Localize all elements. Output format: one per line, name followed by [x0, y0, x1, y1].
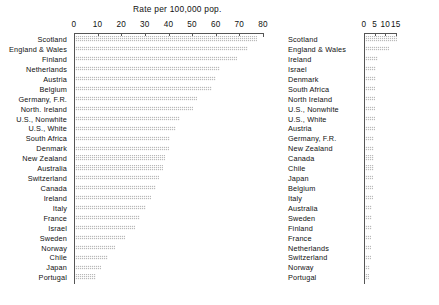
bar-row[interactable]: Finland — [272, 223, 439, 232]
bar-row[interactable]: Austria — [0, 75, 272, 84]
bar-row[interactable]: Switzerland — [0, 174, 272, 183]
bar-row[interactable]: Germany, F.R. — [0, 95, 272, 104]
bar-row[interactable]: Italy — [272, 194, 439, 203]
bar-row[interactable]: U.S., Nonwhite — [272, 104, 439, 113]
bar[interactable] — [365, 245, 371, 250]
bar-row[interactable]: Israel — [272, 65, 439, 74]
bar-row[interactable]: Sweden — [0, 233, 272, 242]
bar[interactable] — [365, 185, 373, 190]
bar[interactable] — [365, 274, 369, 279]
bar[interactable] — [75, 155, 165, 160]
bar[interactable] — [75, 136, 170, 141]
bar[interactable] — [365, 96, 375, 101]
bar[interactable] — [365, 195, 373, 200]
bar[interactable] — [75, 106, 193, 111]
bar-row[interactable]: New Zealand — [272, 144, 439, 153]
bar[interactable] — [75, 36, 257, 41]
bar[interactable] — [365, 126, 375, 131]
bar[interactable] — [75, 225, 135, 230]
bar[interactable] — [75, 56, 237, 61]
bar-row[interactable]: France — [272, 233, 439, 242]
bar-row[interactable]: Portugal — [272, 273, 439, 282]
bar[interactable] — [75, 185, 156, 190]
bar[interactable] — [75, 146, 169, 151]
bar[interactable] — [365, 155, 374, 160]
bar[interactable] — [75, 66, 220, 71]
bar-row[interactable]: Netherlands — [272, 243, 439, 252]
bar[interactable] — [75, 46, 248, 51]
bar-row[interactable]: Japan — [272, 174, 439, 183]
bar-row[interactable]: Australia — [272, 204, 439, 213]
bar[interactable] — [75, 265, 101, 270]
bar-row[interactable]: North. Ireland — [0, 104, 272, 113]
bar[interactable] — [365, 86, 375, 91]
bar[interactable] — [75, 205, 146, 210]
bar-row[interactable]: Sweden — [272, 214, 439, 223]
bar[interactable] — [75, 274, 96, 279]
bar-row[interactable]: U.S., White — [272, 114, 439, 123]
bar-row[interactable]: Scotland — [0, 35, 272, 44]
bar[interactable] — [365, 146, 374, 151]
bar-row[interactable]: Canada — [0, 184, 272, 193]
bar-row[interactable]: Norway — [0, 243, 272, 252]
bar[interactable] — [365, 175, 373, 180]
bar-row[interactable]: Ireland — [272, 55, 439, 64]
bar-row[interactable]: New Zealand — [0, 154, 272, 163]
bar[interactable] — [365, 255, 371, 260]
bar[interactable] — [365, 136, 374, 141]
bar[interactable] — [365, 116, 375, 121]
bar-row[interactable]: Finland — [0, 55, 272, 64]
bar[interactable] — [365, 106, 375, 111]
bar[interactable] — [365, 36, 397, 41]
bar[interactable] — [75, 96, 197, 101]
bar-row[interactable]: Switzerland — [272, 253, 439, 262]
bar[interactable] — [365, 235, 371, 240]
bar[interactable] — [75, 175, 159, 180]
bar-row[interactable]: South Africa — [0, 134, 272, 143]
bar-row[interactable]: Portugal — [0, 273, 272, 282]
bar-row[interactable]: Austria — [272, 124, 439, 133]
bar-row[interactable]: Chile — [0, 253, 272, 262]
bar-row[interactable]: Japan — [0, 263, 272, 272]
bar[interactable] — [365, 56, 378, 61]
bar-row[interactable]: Israel — [0, 223, 272, 232]
bar-row[interactable]: Ireland — [0, 194, 272, 203]
bar-row[interactable]: Australia — [0, 164, 272, 173]
bar[interactable] — [365, 165, 374, 170]
bar[interactable] — [75, 86, 212, 91]
bar-row[interactable]: Germany, F.R. — [272, 134, 439, 143]
bar[interactable] — [75, 245, 115, 250]
bar[interactable] — [75, 126, 176, 131]
bar-row[interactable]: Italy — [0, 204, 272, 213]
bar-row[interactable]: North Ireland — [272, 95, 439, 104]
bar[interactable] — [75, 235, 125, 240]
bar[interactable] — [75, 76, 216, 81]
bar[interactable] — [365, 46, 389, 51]
bar[interactable] — [75, 165, 163, 170]
bar[interactable] — [75, 255, 108, 260]
bar[interactable] — [75, 215, 140, 220]
bar-row[interactable]: Netherlands — [0, 65, 272, 74]
bar[interactable] — [365, 205, 372, 210]
bar[interactable] — [365, 66, 376, 71]
bar-row[interactable]: U.S., Nonwhite — [0, 114, 272, 123]
bar-row[interactable]: Denmark — [272, 75, 439, 84]
bar-row[interactable]: Chile — [272, 164, 439, 173]
bar-row[interactable]: U.S., White — [0, 124, 272, 133]
bar-row[interactable]: Canada — [272, 154, 439, 163]
bar-row[interactable]: England & Wales — [0, 45, 272, 54]
bar-row[interactable]: Belgium — [0, 85, 272, 94]
bar-row[interactable]: Denmark — [0, 144, 272, 153]
bar[interactable] — [365, 265, 370, 270]
bar[interactable] — [75, 195, 151, 200]
bar-row[interactable]: Norway — [272, 263, 439, 272]
bar[interactable] — [365, 76, 376, 81]
bar[interactable] — [75, 116, 180, 121]
bar[interactable] — [365, 215, 372, 220]
bar-row[interactable]: England & Wales — [272, 45, 439, 54]
bar-row[interactable]: Belgium — [272, 184, 439, 193]
bar-row[interactable]: France — [0, 214, 272, 223]
bar-row[interactable]: South Africa — [272, 85, 439, 94]
bar[interactable] — [365, 225, 372, 230]
bar-row[interactable]: Scotland — [272, 35, 439, 44]
